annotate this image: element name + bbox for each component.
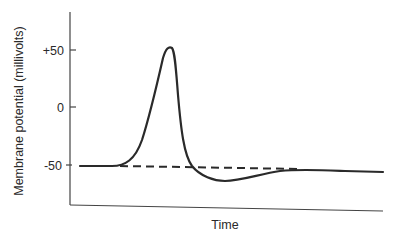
resting-potential-dashed-line [120,166,300,169]
action-potential-chart: +50 0 -50 Membrane potential (millivolts… [0,0,398,242]
y-tick-label-0: 0 [57,101,64,115]
x-axis [70,205,383,211]
y-tick-label-minus50: -50 [44,159,62,173]
action-potential-curve [80,47,383,181]
x-axis-label: Time [211,218,238,232]
y-axis-label: Membrane potential (millivolts) [12,26,26,196]
y-tick-label-plus50: +50 [43,44,64,58]
